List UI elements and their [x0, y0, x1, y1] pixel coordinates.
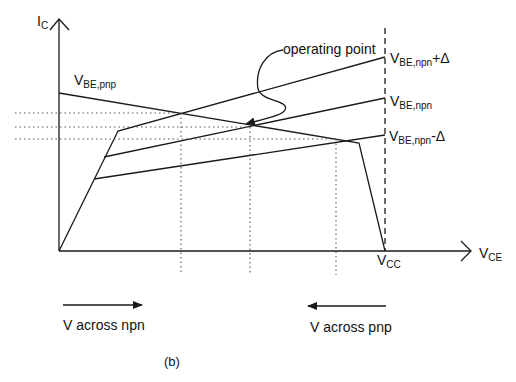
operating-point-pointer	[246, 50, 286, 124]
npn-plus-delta-label: VBE,npn+Δ	[390, 51, 450, 68]
operating-point-label: operating point	[283, 42, 376, 56]
vcc-label: VCC	[377, 253, 401, 270]
npn-label: VBE,npn	[390, 94, 432, 111]
npn-direction-label: V across npn	[63, 318, 145, 332]
pnp-direction-label: V across pnp	[310, 320, 392, 334]
npn-curve-minus-delta	[94, 135, 385, 179]
x-axis-label: VCE	[479, 246, 502, 263]
npn-minus-delta-label: VBE,npn-Δ	[389, 129, 445, 146]
pnp-curve-label: VBE,pnp	[74, 73, 116, 90]
figure-caption: (b)	[164, 355, 180, 368]
y-axis-label: IC	[37, 14, 48, 31]
